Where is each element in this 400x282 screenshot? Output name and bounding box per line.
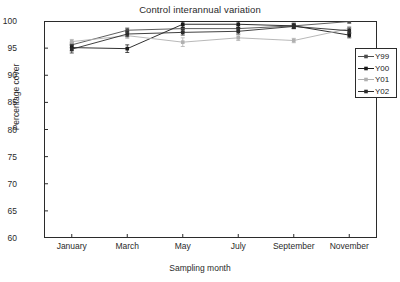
x-tick-may: May xyxy=(175,241,191,251)
x-tick-march: March xyxy=(115,241,139,251)
legend-key-icon xyxy=(357,86,375,97)
legend-item-y00[interactable]: Y00 xyxy=(357,63,396,75)
y-tick-85: 85 xyxy=(0,97,17,107)
legend-key-icon xyxy=(357,63,375,74)
x-tick-november: November xyxy=(330,241,369,251)
legend-item-y01[interactable]: Y01 xyxy=(357,74,396,86)
y-tick-60: 60 xyxy=(0,233,17,243)
series-y99 xyxy=(70,21,352,48)
legend-label: Y00 xyxy=(375,63,389,74)
x-axis-label: Sampling month xyxy=(0,263,400,273)
x-tick-july: July xyxy=(231,241,246,251)
legend-key-icon xyxy=(357,51,375,62)
y-tick-80: 80 xyxy=(0,125,17,135)
y-tick-75: 75 xyxy=(0,152,17,162)
chart-legend[interactable]: Y99Y00Y01Y02 xyxy=(355,48,397,98)
legend-label: Y99 xyxy=(375,51,389,62)
x-tick-september: September xyxy=(273,241,315,251)
y-tick-95: 95 xyxy=(0,43,17,53)
y-tick-70: 70 xyxy=(0,179,17,189)
chart-figure: Control interannual variation Percentage… xyxy=(0,0,400,282)
plot-area xyxy=(44,21,377,238)
x-tick-january: January xyxy=(57,241,87,251)
legend-item-y99[interactable]: Y99 xyxy=(357,51,396,63)
legend-label: Y02 xyxy=(375,86,389,97)
axes-frame xyxy=(44,21,377,238)
series-layer xyxy=(70,21,352,53)
series-y00 xyxy=(70,21,352,52)
series-y01 xyxy=(70,26,352,46)
legend-item-y02[interactable]: Y02 xyxy=(357,86,396,98)
legend-key-icon xyxy=(357,74,375,85)
y-tick-100: 100 xyxy=(0,16,17,26)
chart-title: Control interannual variation xyxy=(0,4,400,15)
legend-label: Y01 xyxy=(375,74,389,85)
y-tick-90: 90 xyxy=(0,70,17,80)
y-tick-65: 65 xyxy=(0,206,17,216)
